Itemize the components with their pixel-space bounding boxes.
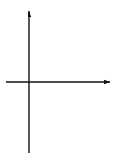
- ytick-background: [6, 53, 28, 62]
- log-y-scatter-chart: [0, 0, 117, 164]
- x-axis-arrow-icon: [104, 80, 110, 84]
- ylabel-background: [7, 12, 28, 22]
- axes: [6, 11, 110, 153]
